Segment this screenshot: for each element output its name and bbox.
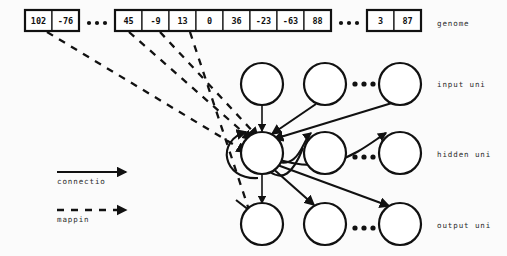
genome-cell-value: -63 [283,16,298,26]
legend-item-connection: connectio [57,172,126,186]
output-unit [241,203,283,245]
input-unit [241,63,283,105]
layer-hidden [241,132,421,174]
genome-group-middle-fragment: 45 -9 13 0 36 -23 -63 88 [115,10,331,31]
label-input-units: input uni [437,80,486,89]
legend-mapping-label: mappin [57,215,90,224]
layer-output [241,203,421,245]
output-layer-ellipsis [352,225,375,230]
genome-cell-value: 3 [378,16,383,26]
genome-cell-value: 87 [402,16,412,26]
connection-input2-hidden1 [272,104,316,134]
mapping-line-4 [190,32,253,222]
legend-item-mapping: mappin [57,210,126,224]
genome-cell-value: 36 [231,16,241,26]
genome-cell-value: 88 [312,16,322,26]
label-genome: genome [437,19,470,28]
label-hidden-units: hidden uni [437,150,491,159]
genome-cell-value: 13 [177,16,187,26]
mapping-lines [47,32,258,222]
genome-network-diagram: 102 -76 45 -9 13 [0,0,507,256]
input-unit [304,63,346,105]
connection-hidden1-output2 [270,166,314,205]
genome-row: 102 -76 45 -9 13 [25,10,421,31]
mapping-line-1 [47,32,246,152]
genome-cell-value: 0 [207,16,212,26]
label-output-units: output uni [437,221,491,230]
genome-cell-value: -9 [150,16,160,26]
layer-input [241,63,421,105]
row-labels: genome input uni hidden uni output uni [437,19,491,230]
genome-cell-value: 45 [123,16,133,26]
output-unit [304,203,346,245]
hidden-layer-ellipsis [352,154,375,159]
genome-cell-value: -23 [256,16,271,26]
hidden-unit [379,132,421,174]
output-unit [379,203,421,245]
diagram-canvas: 102 -76 45 -9 13 [0,0,507,256]
input-layer-ellipsis [352,81,375,86]
genome-ellipsis-right [339,21,359,25]
hidden-unit [241,132,283,174]
genome-ellipsis-left [87,21,107,25]
legend-connection-label: connectio [57,177,106,186]
input-unit [379,63,421,105]
genome-cell-value: -76 [58,16,73,26]
genome-cell-value: 102 [31,16,46,26]
genome-group-left-fragment: 102 -76 [25,10,79,31]
legend: connectio mappin [57,172,126,224]
hidden-unit [304,132,346,174]
genome-group-right-fragment: 3 87 [367,10,421,31]
mapping-line-2 [129,32,252,140]
